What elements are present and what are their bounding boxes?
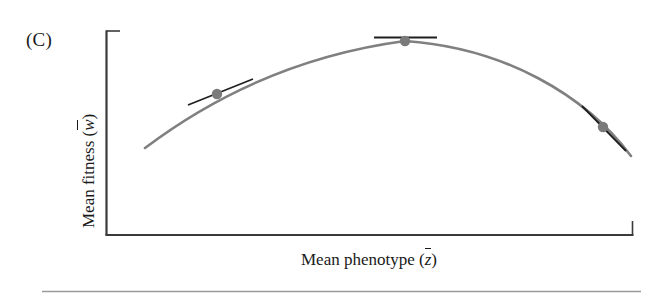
- data-point-peak: [400, 36, 410, 46]
- x-axis-variable-text: z: [425, 250, 432, 269]
- y-axis-title: Mean fitness (w): [78, 18, 100, 228]
- data-point-right: [598, 122, 608, 132]
- axes-group: [106, 31, 634, 236]
- x-axis-variable-overline: [425, 248, 431, 249]
- panel-label: (C): [26, 30, 52, 49]
- y-axis-variable-wbar: w: [78, 119, 100, 130]
- x-axis-title-suffix: ): [431, 250, 437, 269]
- x-axis-variable-zbar: z: [425, 249, 432, 271]
- x-axis-title-prefix: Mean phenotype (: [301, 250, 425, 269]
- y-axis-title-prefix: Mean fitness (: [79, 131, 98, 228]
- y-axis-variable-overline: [77, 120, 78, 130]
- y-axis-variable-text: w: [79, 119, 98, 130]
- tangent-right-group: [582, 106, 626, 151]
- x-axis-title: Mean phenotype (z): [105, 249, 633, 271]
- figure-panel-c: (C) Mean fitness (w) Mean phenotype (z): [0, 0, 657, 302]
- data-point-left: [212, 89, 222, 99]
